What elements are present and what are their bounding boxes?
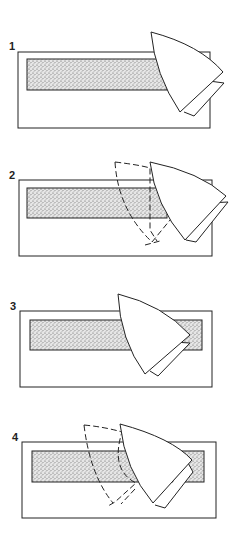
panel-label-3: 3	[10, 300, 16, 312]
panel-2	[19, 162, 228, 256]
diagram-canvas	[0, 0, 240, 546]
panel-3	[20, 294, 212, 387]
panel-label-2: 2	[9, 169, 15, 181]
panel-label-1: 1	[9, 40, 15, 52]
panel-1	[18, 32, 224, 128]
panel-label-4: 4	[12, 431, 18, 443]
panel-4	[22, 424, 216, 518]
